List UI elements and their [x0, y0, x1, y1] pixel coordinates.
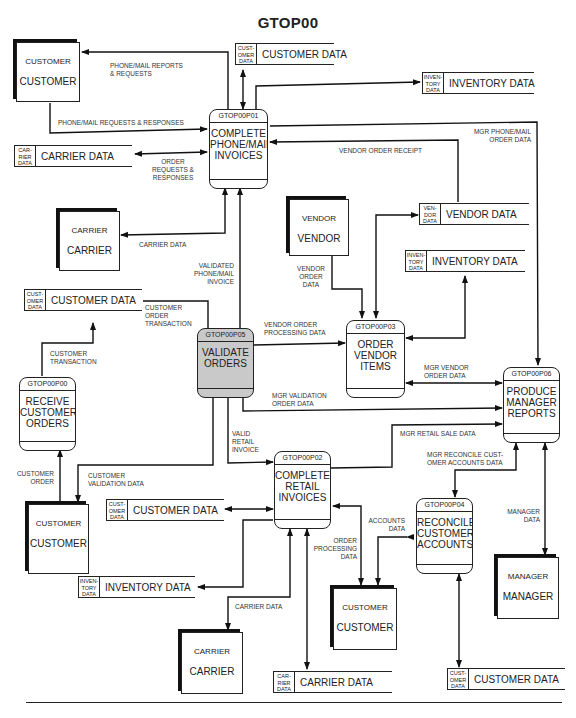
flow-label: VALIDATED PHONE/MAIL INVOICE	[190, 262, 234, 286]
store-name: INVENTORY DATA	[432, 256, 518, 267]
store-customer-data-top[interactable]: CUST- OMER DATA CUSTOMER DATA	[235, 43, 334, 65]
entity-label-small: VENDOR	[290, 214, 348, 223]
store-customer-data-left[interactable]: CUST- OMER DATA CUSTOMER DATA	[24, 289, 142, 311]
entity-label-small: CUSTOMER	[17, 57, 79, 66]
store-tag: CAR- RIER DATA	[273, 671, 295, 693]
process-gtop00p02[interactable]: GTOP00P02 COMPLETE RETAIL INVOICES	[274, 451, 331, 529]
store-name: CUSTOMER DATA	[262, 49, 347, 60]
diagram-title: GTOP00	[0, 14, 576, 31]
process-gtop00p00[interactable]: GTOP00P00 RECEIVE CUSTOMER ORDERS	[19, 377, 76, 451]
store-tag: CUST- OMER DATA	[24, 289, 46, 311]
flow-label: MGR PHONE/MAIL ORDER DATA	[465, 128, 531, 144]
flow-label: MGR RETAIL SALE DATA	[400, 430, 476, 438]
process-id: GTOP00P02	[275, 452, 330, 465]
flow-label: ORDER REQUESTS & RESPONSES	[148, 158, 198, 182]
store-tag: CUST- OMER DATA	[235, 43, 257, 65]
entity-label: CUSTOMER	[334, 622, 396, 633]
store-customer-data-mid[interactable]: CUST- OMER DATA CUSTOMER DATA	[106, 499, 224, 521]
process-name: ORDER VENDOR ITEMS	[347, 334, 404, 372]
store-name: INVENTORY DATA	[105, 582, 191, 593]
flow-label: ACCOUNTS DATA	[365, 517, 405, 533]
store-inventory-data-bottom[interactable]: INVEN- TORY DATA INVENTORY DATA	[78, 576, 195, 598]
store-carrier-data-bottom[interactable]: CAR- RIER DATA CARRIER DATA	[273, 671, 392, 693]
entity-carrier-bottom[interactable]: CARRIER CARRIER	[181, 632, 243, 694]
process-name: RECONCILE CUSTOMER ACCOUNTS	[417, 512, 472, 550]
process-id: GTOP00P03	[347, 321, 404, 334]
flow-label: CUSTOMER VALIDATION DATA	[88, 472, 154, 488]
flow-label: MGR VALIDATION ORDER DATA	[272, 392, 332, 408]
entity-label: CUSTOMER	[17, 76, 79, 87]
flow-label: VENDOR ORDER PROCESSING DATA	[264, 321, 334, 337]
entity-vendor[interactable]: VENDOR VENDOR	[289, 199, 349, 256]
process-gtop00p04[interactable]: GTOP00P04 RECONCILE CUSTOMER ACCOUNTS	[416, 498, 473, 574]
store-inventory-data-mid[interactable]: INVEN- TORY DATA INVENTORY DATA	[405, 250, 525, 272]
process-id: GTOP00P04	[417, 499, 472, 512]
entity-carrier-top[interactable]: CARRIER CARRIER	[59, 211, 120, 271]
store-name: CUSTOMER DATA	[474, 674, 559, 685]
process-name: COMPLETE PHONE/MAIL INVOICES	[210, 123, 267, 161]
store-tag: INVEN- TORY DATA	[422, 72, 444, 94]
process-id: GTOP00P00	[20, 378, 75, 391]
flow-label: MANAGER DATA	[504, 508, 540, 524]
process-gtop00p03[interactable]: GTOP00P03 ORDER VENDOR ITEMS	[346, 320, 405, 398]
entity-customer-top[interactable]: CUSTOMER CUSTOMER	[16, 42, 80, 102]
store-name: CARRIER DATA	[300, 677, 373, 688]
store-tag: VEN- DOR DATA	[419, 203, 441, 225]
process-gtop00p01[interactable]: GTOP00P01 COMPLETE PHONE/MAIL INVOICES	[209, 109, 268, 189]
flow-label: CARRIER DATA	[139, 241, 186, 249]
entity-manager[interactable]: MANAGER MANAGER	[497, 557, 559, 619]
entity-label-small: CUSTOMER	[29, 519, 88, 528]
entity-label: MANAGER	[498, 591, 558, 602]
flow-label: VALID RETAIL INVOICE	[232, 430, 260, 454]
entity-label-small: MANAGER	[498, 572, 558, 581]
store-customer-data-bottom[interactable]: CUST- OMER DATA CUSTOMER DATA	[447, 668, 565, 690]
entity-label-small: CARRIER	[60, 226, 119, 235]
process-gtop00p05[interactable]: GTOP00P05 VALIDATE ORDERS	[197, 328, 254, 398]
process-id: GTOP00P05	[198, 329, 253, 342]
entity-customer-bottom-left[interactable]: CUSTOMER CUSTOMER	[28, 504, 89, 574]
store-tag: CAR- RIER DATA	[14, 145, 36, 167]
entity-label: CARRIER	[60, 245, 119, 256]
store-tag: INVEN- TORY DATA	[405, 250, 427, 272]
process-name: VALIDATE ORDERS	[198, 342, 253, 369]
store-name: CUSTOMER DATA	[133, 505, 218, 516]
store-inventory-data-top[interactable]: INVEN- TORY DATA INVENTORY DATA	[422, 72, 534, 94]
entity-customer-bottom-mid[interactable]: CUSTOMER CUSTOMER	[333, 588, 397, 650]
entity-label-small: CARRIER	[182, 647, 242, 656]
store-tag: CUST- OMER DATA	[106, 499, 128, 521]
process-gtop00p06[interactable]: GTOP00P06 PRODUCE MANAGER REPORTS	[503, 367, 560, 443]
entity-label: VENDOR	[290, 233, 348, 244]
flow-label: ORDER PROCESSING DATA	[313, 537, 357, 561]
store-name: CUSTOMER DATA	[51, 295, 136, 306]
flow-label: VENDOR ORDER DATA	[293, 265, 329, 289]
entity-label-small: CUSTOMER	[334, 603, 396, 612]
bottom-rule	[26, 702, 562, 703]
store-name: INVENTORY DATA	[449, 78, 535, 89]
flow-label: VENDOR ORDER RECEIPT	[339, 147, 422, 155]
entity-label: CUSTOMER	[29, 538, 88, 549]
flow-label: MGR VENDOR ORDER DATA	[424, 364, 478, 380]
process-id: GTOP00P01	[210, 110, 267, 123]
flow-label: CARRIER DATA	[235, 603, 282, 611]
store-carrier-data-top[interactable]: CAR- RIER DATA CARRIER DATA	[14, 145, 132, 167]
store-vendor-data[interactable]: VEN- DOR DATA VENDOR DATA	[419, 203, 529, 225]
store-tag: INVEN- TORY DATA	[78, 576, 100, 598]
flow-label: CUSTOMER ORDER	[12, 470, 54, 486]
process-name: COMPLETE RETAIL INVOICES	[275, 465, 330, 503]
flow-label: CUSTOMER ORDER TRANSACTION	[145, 304, 195, 328]
store-tag: CUST- OMER DATA	[447, 668, 469, 690]
store-name: CARRIER DATA	[41, 151, 114, 162]
flow-label: MGR RECONCILE CUST- OMER ACCOUNTS DATA	[427, 451, 509, 467]
flow-label: CUSTOMER TRANSACTION	[50, 350, 100, 366]
process-name: RECEIVE CUSTOMER ORDERS	[20, 391, 75, 429]
flow-label: PHONE/MAIL REPORTS & REQUESTS	[110, 62, 186, 78]
store-name: VENDOR DATA	[446, 209, 517, 220]
entity-label: CARRIER	[182, 666, 242, 677]
process-name: PRODUCE MANAGER REPORTS	[504, 381, 559, 419]
process-id: GTOP00P06	[504, 368, 559, 381]
flow-label: PHONE/MAIL REQUESTS & RESPONSES	[58, 119, 184, 127]
